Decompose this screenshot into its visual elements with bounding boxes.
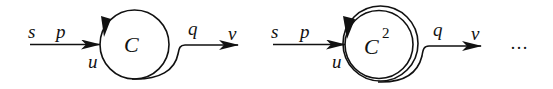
label-q: q	[188, 18, 198, 39]
label-s: s	[28, 21, 35, 42]
label-u: u	[88, 51, 98, 72]
label-v: v	[228, 23, 237, 44]
cycle-c-circle-outer	[343, 6, 418, 81]
path-q-edge	[378, 46, 481, 82]
cycle-arrow-icon	[343, 16, 355, 39]
continuation-ellipsis: …	[510, 33, 528, 53]
label-cycle: C	[124, 32, 139, 57]
walk-cycle-diagram: s p u C q v s p u C 2 q v …	[0, 0, 553, 89]
diagram-cycle-once: s p u C q v	[28, 10, 238, 79]
label-s: s	[271, 21, 278, 42]
label-u: u	[332, 51, 342, 72]
label-p: p	[54, 21, 66, 42]
label-p: p	[298, 21, 310, 42]
cycle-c-circle-inner	[345, 11, 413, 79]
diagram-cycle-twice: s p u C 2 q v	[271, 6, 481, 82]
label-cycle-superscript: 2	[382, 25, 390, 41]
label-q: q	[433, 19, 443, 40]
path-q-edge	[132, 45, 238, 79]
label-cycle: C	[364, 34, 379, 59]
label-v: v	[471, 23, 480, 44]
